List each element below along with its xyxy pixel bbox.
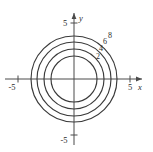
y-axis-label: y xyxy=(78,13,83,23)
contour-plot-figure: -5 5 5 -5 x y 2 4 6 8 xyxy=(0,0,153,152)
x-axis-label: x xyxy=(137,82,142,92)
contour-label-level-2: 2 xyxy=(96,52,100,61)
contour-label-level-6: 6 xyxy=(103,37,107,46)
contour-plot-svg: -5 5 5 -5 x y 2 4 6 8 xyxy=(0,0,153,152)
contour-label-level-8: 8 xyxy=(108,31,112,40)
y-axis-tick-label-neg5: -5 xyxy=(60,135,67,145)
x-axis-arrow-icon xyxy=(136,77,142,82)
x-axis-tick-label-neg5: -5 xyxy=(8,82,15,92)
y-axis-tick-label-pos5: 5 xyxy=(63,18,67,28)
x-axis-tick-label-pos5: 5 xyxy=(128,82,132,92)
y-axis-arrow-icon xyxy=(72,13,77,19)
